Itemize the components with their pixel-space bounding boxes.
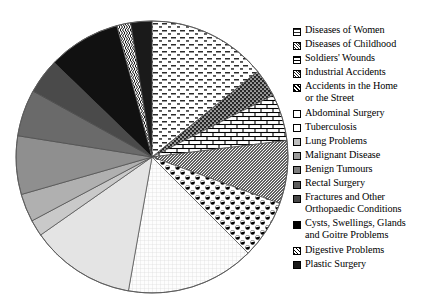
legend-item-label: Accidents in the Home or the Street (305, 80, 398, 104)
legend-swatch-gray-2-icon (293, 152, 301, 160)
legend-swatch-dashes-icon (293, 28, 301, 36)
legend-item-label: Digestive Problems (305, 244, 384, 256)
legend-item-label: Benign Tumours (305, 163, 373, 175)
legend-item[interactable]: Diseases of Women (293, 24, 429, 36)
legend-item[interactable]: Digestive Problems (293, 244, 429, 256)
legend-item[interactable]: Plastic Surgery (293, 258, 429, 270)
legend: Diseases of WomenDiseases of ChildhoodSo… (293, 24, 429, 272)
legend-item-label: Rectal Surgery (305, 177, 365, 189)
legend-item[interactable]: Cysts, Swellings, Glands and Goitre Prob… (293, 217, 429, 241)
legend-item[interactable]: Abdominal Surgery (293, 107, 429, 119)
legend-swatch-brick-icon (293, 56, 301, 64)
legend-item[interactable]: Rectal Surgery (293, 177, 429, 189)
legend-item[interactable]: Tuberculosis (293, 121, 429, 133)
legend-swatch-polka-dots-icon (293, 84, 301, 92)
legend-item-label: Fractures and Other Orthopaedic Conditio… (305, 191, 402, 215)
legend-item[interactable]: Accidents in the Home or the Street (293, 80, 429, 104)
pie-chart-area (0, 0, 290, 308)
legend-swatch-fine-diagonal-icon (293, 70, 301, 78)
legend-swatch-gray-5-icon (293, 195, 301, 203)
pie-slices-group (16, 21, 288, 293)
legend-swatch-gray-3-icon (293, 166, 301, 174)
legend-item[interactable]: Benign Tumours (293, 163, 429, 175)
pie-chart-figure: Diseases of WomenDiseases of ChildhoodSo… (0, 0, 429, 308)
legend-item[interactable]: Malignant Disease (293, 149, 429, 161)
legend-item-label: Industrial Accidents (305, 66, 386, 78)
legend-swatch-black-icon (293, 221, 301, 229)
legend-swatch-near-black-icon (293, 261, 301, 269)
legend-swatch-gray-1-icon (293, 138, 301, 146)
legend-item[interactable]: Diseases of Childhood (293, 38, 429, 50)
legend-item-label: Diseases of Women (305, 24, 385, 36)
legend-swatch-light-gray-icon (293, 124, 301, 132)
legend-item-label: Plastic Surgery (305, 258, 366, 270)
legend-swatch-zigzag-icon (293, 247, 301, 255)
pie-chart-svg (0, 0, 290, 308)
legend-item-label: Malignant Disease (305, 149, 380, 161)
legend-swatch-fine-grid-icon (293, 110, 301, 118)
legend-item-label: Abdominal Surgery (305, 107, 385, 119)
legend-item-label: Cysts, Swellings, Glands and Goitre Prob… (305, 217, 406, 241)
legend-item-label: Soldiers' Wounds (305, 52, 375, 64)
legend-item[interactable]: Fractures and Other Orthopaedic Conditio… (293, 191, 429, 215)
legend-item[interactable]: Lung Problems (293, 135, 429, 147)
legend-item[interactable]: Soldiers' Wounds (293, 52, 429, 64)
legend-item[interactable]: Industrial Accidents (293, 66, 429, 78)
legend-item-label: Diseases of Childhood (305, 38, 396, 50)
legend-item-label: Lung Problems (305, 135, 367, 147)
legend-item-label: Tuberculosis (305, 121, 357, 133)
legend-swatch-dense-dots-dark-icon (293, 42, 301, 50)
legend-swatch-gray-4-icon (293, 181, 301, 189)
